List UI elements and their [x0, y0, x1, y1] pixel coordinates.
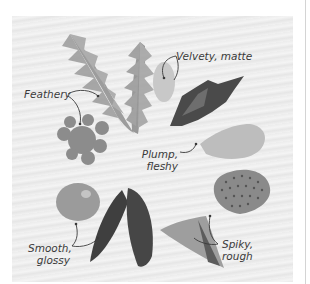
label-smooth: Smooth, — [28, 242, 70, 254]
label-smooth-glossy: Smooth, glossy — [28, 242, 70, 266]
label-fleshy: fleshy — [134, 160, 178, 172]
page-divider — [305, 0, 306, 284]
label-spiky: Spiky, — [222, 238, 253, 250]
label-feathery: Feathery — [24, 88, 71, 100]
lobed-geranium-leaf — [57, 114, 109, 165]
label-plump: Plump, — [134, 148, 178, 160]
label-plump-fleshy: Plump, fleshy — [134, 148, 178, 172]
round-glossy-leaf — [56, 183, 100, 221]
label-spiky-rough: Spiky, rough — [222, 238, 253, 262]
label-rough: rough — [222, 250, 253, 262]
fern-frond — [62, 34, 154, 134]
lambs-ear-leaf — [153, 62, 175, 102]
dark-crinkled-leaf — [170, 76, 244, 126]
succulent-leaf — [200, 124, 265, 159]
label-velvety-matte: Velvety, matte — [176, 50, 252, 62]
label-glossy: glossy — [28, 254, 70, 266]
plant-texture-photo: Feathery Velvety, matte Plump, fleshy Sm… — [12, 16, 293, 282]
spotted-cactus-pad — [214, 170, 270, 214]
